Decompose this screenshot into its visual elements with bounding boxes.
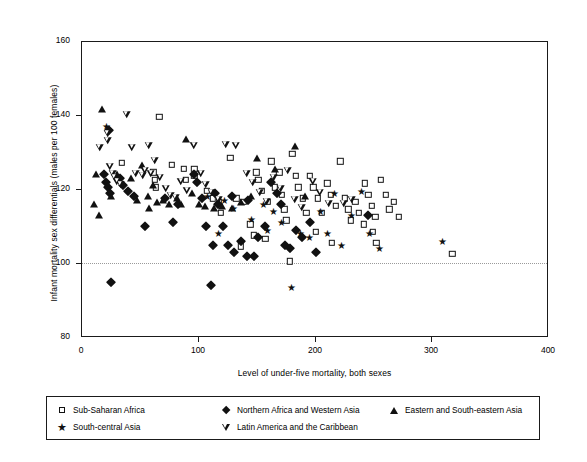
legend-item-latin-america-caribbean: Latin America and the Caribbean — [221, 422, 358, 432]
x-tick-label-100: 100 — [178, 345, 218, 355]
data-point — [201, 202, 209, 209]
data-point — [149, 182, 157, 189]
data-point — [383, 191, 389, 197]
data-point — [177, 178, 186, 185]
open-triangle-down-icon — [221, 422, 231, 432]
data-point — [255, 189, 264, 196]
data-point — [162, 185, 171, 192]
data-point: ★ — [438, 237, 448, 244]
data-point — [283, 167, 292, 174]
data-point — [253, 169, 259, 175]
data-point: ★ — [375, 245, 385, 252]
data-point — [242, 170, 251, 177]
data-point — [386, 206, 392, 212]
data-point — [291, 143, 299, 150]
data-point — [197, 170, 206, 177]
data-point — [156, 114, 162, 120]
data-point — [290, 196, 299, 203]
data-point — [271, 165, 279, 172]
data-point — [360, 221, 366, 227]
data-point — [248, 180, 257, 187]
data-point — [324, 200, 333, 207]
data-point — [92, 171, 100, 178]
data-point: ★ — [364, 230, 374, 237]
data-point — [247, 193, 255, 200]
legend-label: Northern Africa and Western Asia — [237, 405, 360, 415]
data-point — [369, 202, 375, 208]
legend-item-northern-africa-western-asia: Northern Africa and Western Asia — [221, 405, 360, 415]
data-point: ★ — [315, 208, 325, 215]
reference-line-100 — [82, 263, 547, 264]
data-point — [116, 182, 125, 189]
x-tick-label-0: 0 — [61, 345, 101, 355]
data-point — [309, 178, 318, 185]
data-point — [221, 141, 230, 148]
data-point — [107, 193, 115, 200]
x-axis-title: Level of under-five mortality, both sexe… — [81, 368, 548, 378]
x-tick-label-300: 300 — [411, 345, 451, 355]
y-tick-label-80: 80 — [30, 331, 70, 341]
data-point — [218, 210, 224, 216]
data-point — [156, 174, 165, 181]
data-point — [269, 174, 278, 181]
data-point: ★ — [214, 230, 224, 237]
x-tick-mark-100 — [198, 337, 199, 342]
data-point: ★ — [347, 211, 357, 218]
star-icon: ★ — [57, 422, 67, 432]
data-point — [183, 187, 192, 194]
data-point — [395, 214, 401, 220]
data-point — [253, 154, 261, 161]
y-tick-label-100: 100 — [30, 257, 70, 267]
data-point — [449, 251, 455, 257]
data-point — [122, 111, 131, 118]
x-tick-label-200: 200 — [295, 345, 335, 355]
data-point — [228, 204, 236, 211]
data-point — [144, 143, 153, 150]
x-tick-mark-200 — [315, 337, 316, 342]
data-point — [348, 196, 357, 203]
data-point — [237, 198, 245, 205]
data-point — [106, 163, 115, 170]
x-tick-label-400: 400 — [528, 345, 568, 355]
data-point — [268, 158, 274, 164]
data-point — [391, 199, 397, 205]
filled-triangle-up-icon — [389, 405, 399, 415]
open-square-icon — [57, 405, 67, 415]
legend-item-south-central-asia: ★ South-central Asia — [57, 422, 140, 432]
data-point — [190, 143, 199, 150]
x-tick-mark-300 — [431, 337, 432, 342]
data-point — [207, 189, 216, 196]
data-point — [287, 258, 293, 264]
data-point: ★ — [286, 284, 296, 291]
data-point — [227, 154, 233, 160]
data-point — [262, 236, 268, 242]
y-axis-title: Infant mortality sex differentials (male… — [49, 43, 59, 343]
y-tick-label-140: 140 — [30, 109, 70, 119]
data-point — [293, 173, 299, 179]
data-point — [378, 177, 384, 183]
data-point — [104, 137, 113, 144]
legend-item-sub-saharan-africa: Sub-Saharan Africa — [57, 405, 145, 415]
legend-label: Latin America and the Caribbean — [237, 422, 358, 432]
data-point — [171, 195, 180, 202]
data-point: ★ — [356, 187, 366, 194]
data-point — [95, 145, 104, 152]
data-point — [95, 211, 103, 218]
data-point — [232, 143, 241, 150]
chart-legend: Sub-Saharan Africa ★ South-central Asia … — [46, 396, 540, 440]
data-point — [169, 162, 175, 168]
data-point — [145, 204, 153, 211]
data-point — [289, 151, 295, 157]
data-point — [332, 202, 338, 208]
data-point — [329, 239, 335, 245]
data-point — [202, 182, 211, 189]
data-point: ★ — [329, 189, 339, 196]
data-point — [301, 193, 309, 200]
data-point — [276, 185, 285, 192]
scatter-chart-figure: Infant mortality sex differentials (male… — [0, 0, 587, 462]
data-point — [150, 158, 159, 165]
data-point — [104, 130, 113, 137]
data-point — [295, 184, 301, 190]
data-point — [181, 165, 187, 171]
data-point — [133, 197, 141, 204]
